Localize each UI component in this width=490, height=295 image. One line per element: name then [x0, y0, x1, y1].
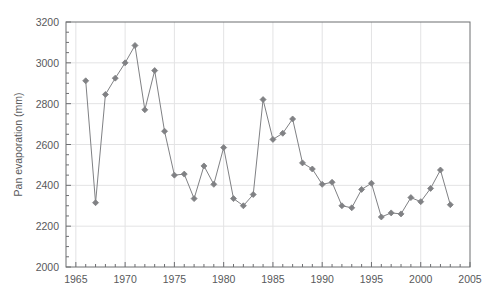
- y-axis-title: Pan evaporation (mm): [12, 93, 24, 197]
- y-tick-label: 2400: [36, 179, 60, 191]
- x-tick-label: 1985: [261, 273, 285, 285]
- y-tick-label: 2800: [36, 98, 60, 110]
- y-tick-label: 2600: [36, 139, 60, 151]
- y-tick-label: 3200: [36, 16, 60, 28]
- pan-evaporation-line-chart: 2000220024002600280030003200196519701975…: [0, 0, 490, 295]
- y-tick-label: 2200: [36, 220, 60, 232]
- x-tick-label: 2005: [458, 273, 482, 285]
- x-tick-label: 1970: [113, 273, 137, 285]
- x-tick-label: 1995: [360, 273, 384, 285]
- x-axis-tick-labels: 196519701975198019851990199520002005: [64, 273, 482, 285]
- chart-background: [0, 0, 490, 295]
- figure-caption-clipped: [0, 287, 490, 295]
- x-tick-label: 2000: [409, 273, 433, 285]
- x-tick-label: 1990: [311, 273, 335, 285]
- x-tick-label: 1975: [163, 273, 187, 285]
- y-tick-label: 2000: [36, 261, 60, 273]
- x-tick-label: 1965: [64, 273, 88, 285]
- figure-container: 2000220024002600280030003200196519701975…: [0, 0, 490, 295]
- y-tick-label: 3000: [36, 57, 60, 69]
- x-tick-label: 1980: [212, 273, 236, 285]
- chart-plot-area: 2000220024002600280030003200196519701975…: [0, 0, 490, 295]
